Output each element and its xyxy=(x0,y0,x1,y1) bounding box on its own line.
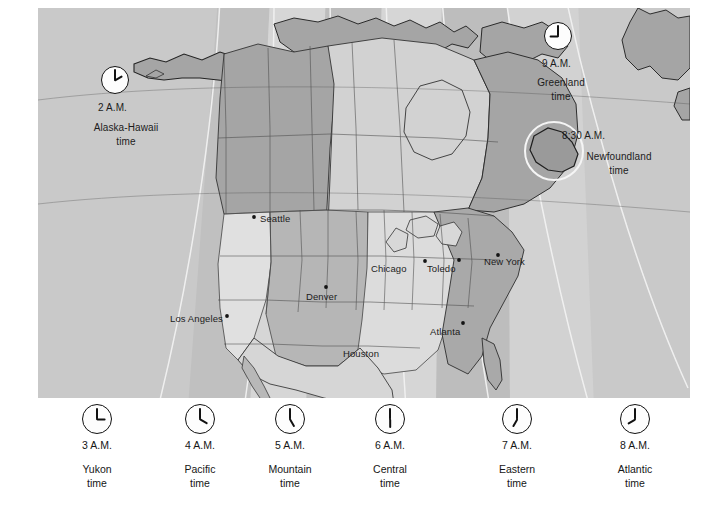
legend-clock-wrap-eastern xyxy=(502,404,532,434)
clock-alaska-hawaii xyxy=(101,66,129,94)
clock-pacific xyxy=(185,404,215,434)
legend-clock-wrap-yukon xyxy=(82,404,112,434)
callout-name-alaska-hawaii: Alaska-Hawaii time xyxy=(71,121,181,148)
legend-name-yukon: Yukon time xyxy=(37,462,157,490)
clock-pivot xyxy=(557,35,560,38)
legend-clock-wrap-central xyxy=(375,404,405,434)
map-graphic xyxy=(38,8,690,398)
callout-name-greenland: Greenland time xyxy=(516,76,606,103)
callout-time-greenland: 9 A.M. xyxy=(542,58,571,71)
city-label-los-angeles: Los Angeles xyxy=(170,313,223,325)
clock-pivot xyxy=(634,418,637,421)
legend-name-central: Central time xyxy=(330,462,450,490)
callout-time-newfoundland: 8:30 A.M. xyxy=(562,130,605,143)
legend-item-yukon: 3 A.M. Yukon time xyxy=(37,404,157,490)
city-label-atlanta: Atlanta xyxy=(430,326,460,338)
legend-item-central: 6 A.M. Central time xyxy=(330,404,450,490)
city-label-toledo: Toledo xyxy=(427,263,456,275)
clock-yukon xyxy=(82,404,112,434)
clock-greenland xyxy=(544,22,572,50)
city-label-seattle: Seattle xyxy=(260,213,290,225)
clock-central xyxy=(375,404,405,434)
time-zone-map: Seattle Los Angeles Denver Chicago Toled… xyxy=(38,8,690,398)
legend-time-yukon: 3 A.M. xyxy=(37,439,157,451)
callout-time-alaska-hawaii: 2 A.M. xyxy=(98,102,127,115)
city-label-chicago: Chicago xyxy=(371,263,407,275)
clock-mountain xyxy=(275,404,305,434)
legend-time-eastern: 7 A.M. xyxy=(457,439,577,451)
legend-time-atlantic: 8 A.M. xyxy=(575,439,695,451)
clock-hour-hand xyxy=(97,418,106,420)
clock-atlantic xyxy=(620,404,650,434)
legend-clock-wrap-atlantic xyxy=(620,404,650,434)
city-label-denver: Denver xyxy=(306,291,337,303)
city-label-new-york: New York xyxy=(484,256,525,268)
usa-mountain-zone xyxy=(266,210,368,366)
legend-clock-wrap-mountain xyxy=(275,404,305,434)
legend-name-atlantic: Atlantic time xyxy=(575,462,695,490)
time-zone-legend: 3 A.M. Yukon time 4 A.M. Pacific time 5 … xyxy=(0,404,723,504)
legend-name-eastern: Eastern time xyxy=(457,462,577,490)
legend-clock-wrap-pacific xyxy=(185,404,215,434)
callout-name-newfoundland: Newfoundland time xyxy=(564,150,674,177)
city-label-houston: Houston xyxy=(343,348,379,360)
legend-item-atlantic: 8 A.M. Atlantic time xyxy=(575,404,695,490)
clock-eastern xyxy=(502,404,532,434)
legend-item-eastern: 7 A.M. Eastern time xyxy=(457,404,577,490)
legend-time-central: 6 A.M. xyxy=(330,439,450,451)
clock-hour-hand xyxy=(389,419,391,428)
